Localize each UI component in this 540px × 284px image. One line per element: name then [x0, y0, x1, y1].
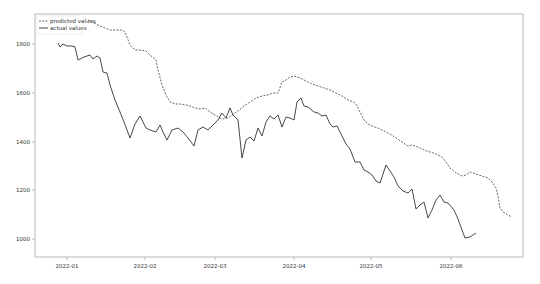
y-tick-label: 1400 — [16, 139, 30, 145]
x-tick-label: 2022-04 — [283, 263, 306, 269]
y-tick-label: 1000 — [16, 236, 30, 242]
y-tick-label: 1200 — [16, 187, 30, 193]
y-tick-label: 1800 — [16, 41, 30, 47]
x-tick-label: 2022-01 — [56, 263, 79, 269]
x-tick-label: 2022-05 — [360, 263, 383, 269]
legend-label-actual: actual values — [50, 25, 87, 31]
legend-label-predicted: predicted values — [50, 18, 96, 25]
x-tick-label: 2022-06 — [440, 263, 463, 269]
x-tick-label: 2022-02 — [134, 263, 157, 269]
chart-background — [0, 0, 540, 284]
y-tick-label: 1600 — [16, 90, 30, 96]
x-tick-label: 2022-03 — [204, 263, 227, 269]
line-chart: 2022-012022-022022-032022-042022-052022-… — [0, 0, 540, 284]
